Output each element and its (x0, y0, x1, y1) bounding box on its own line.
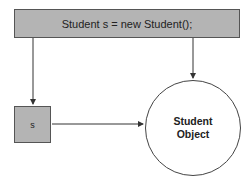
object-label-line1: Student (173, 115, 212, 128)
statement-box: Student s = new Student(); (14, 9, 240, 38)
variable-label: s (30, 120, 35, 130)
student-object-circle: Student Object (145, 80, 241, 176)
statement-text: Student s = new Student(); (62, 18, 193, 30)
variable-box: s (14, 106, 51, 143)
object-label-line2: Object (177, 128, 210, 141)
